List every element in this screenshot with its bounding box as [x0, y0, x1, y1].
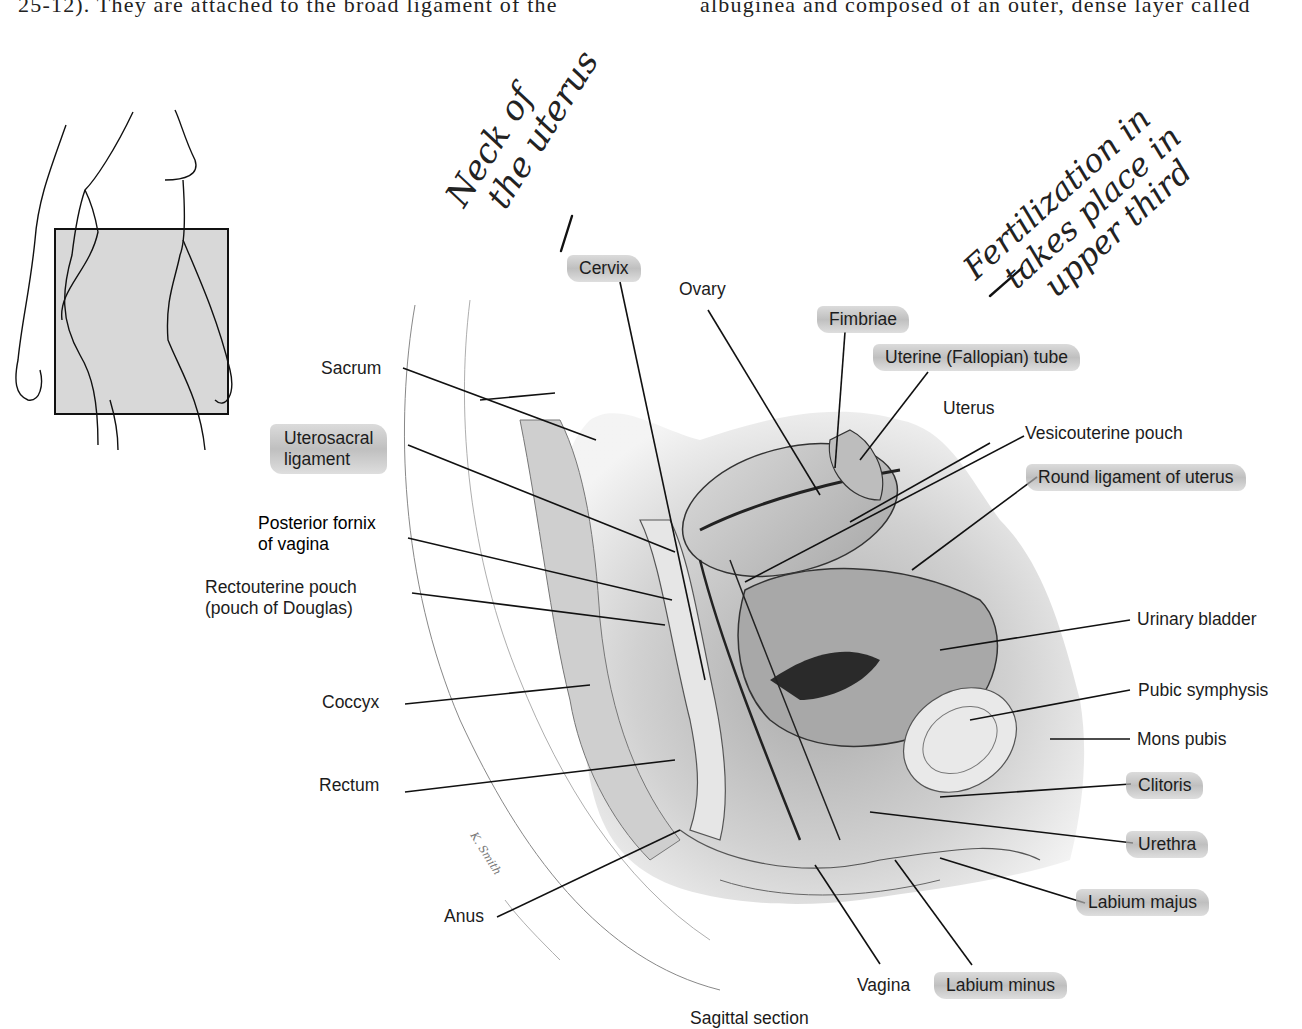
label-labium-majus: Labium majus — [1076, 889, 1209, 916]
label-rectum: Rectum — [319, 775, 379, 796]
label-urethra: Urethra — [1126, 831, 1208, 858]
label-clitoris: Clitoris — [1126, 772, 1203, 799]
svg-text:K. Smith: K. Smith — [467, 829, 504, 878]
label-anus: Anus — [444, 906, 484, 927]
label-line: (pouch of Douglas) — [205, 598, 357, 619]
label-labium-minus: Labium minus — [934, 972, 1067, 999]
label-line: Uterosacral — [284, 428, 373, 449]
label-uterosacral-ligament: Uterosacral ligament — [270, 424, 387, 474]
label-vesicouterine-pouch: Vesicouterine pouch — [1025, 423, 1183, 444]
label-cervix: Cervix — [567, 255, 641, 282]
label-round-ligament: Round ligament of uterus — [1026, 464, 1246, 491]
label-uterus: Uterus — [943, 398, 995, 419]
label-line: Rectouterine pouch — [205, 577, 357, 598]
label-pubic-symphysis: Pubic symphysis — [1138, 680, 1268, 701]
label-ovary: Ovary — [679, 279, 726, 300]
label-sacrum: Sacrum — [321, 358, 381, 379]
label-urinary-bladder: Urinary bladder — [1137, 609, 1257, 630]
label-fimbriae: Fimbriae — [817, 306, 909, 333]
label-rectouterine-pouch: Rectouterine pouch (pouch of Douglas) — [205, 577, 357, 619]
figure-caption: Sagittal section — [690, 1008, 809, 1029]
label-vagina: Vagina — [857, 975, 910, 996]
body-outline-inset-icon — [16, 110, 232, 450]
label-posterior-fornix: Posterior fornix of vagina — [258, 513, 376, 555]
label-coccyx: Coccyx — [322, 692, 379, 713]
label-uterine-tube: Uterine (Fallopian) tube — [873, 344, 1080, 371]
label-mons-pubis: Mons pubis — [1137, 729, 1227, 750]
label-line: of vagina — [258, 534, 376, 555]
label-line: Posterior fornix — [258, 513, 376, 534]
label-line: ligament — [284, 449, 373, 470]
